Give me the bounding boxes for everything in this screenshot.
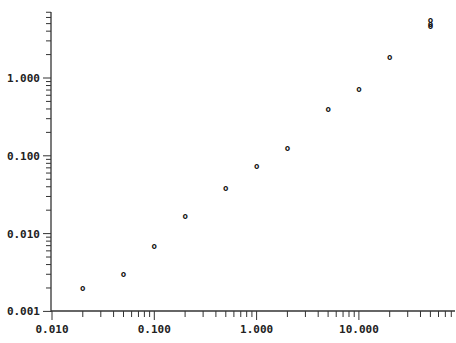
data-points: ooooooooooooo: [80, 15, 433, 293]
data-point-marker: o: [254, 161, 259, 171]
data-point-marker: o: [428, 15, 433, 25]
scatter-chart: 0.0100.1001.00010.0000.0010.0100.1001.00…: [0, 0, 456, 343]
x-tick-label: 1.000: [240, 323, 273, 336]
y-tick-label: 0.001: [7, 305, 40, 318]
y-tick-label: 1.000: [7, 72, 40, 85]
tick-labels: 0.0100.1001.00010.0000.0010.0100.1001.00…: [7, 72, 379, 336]
data-point-marker: o: [152, 241, 157, 251]
data-point-marker: o: [387, 52, 392, 62]
y-tick-label: 0.100: [7, 150, 40, 163]
data-point-marker: o: [80, 283, 85, 293]
x-tick-label: 0.010: [35, 323, 68, 336]
data-point-marker: o: [223, 183, 228, 193]
data-point-marker: o: [325, 104, 330, 114]
x-tick-label: 0.100: [138, 323, 171, 336]
x-tick-label: 10.000: [339, 323, 379, 336]
data-point-marker: o: [121, 269, 126, 279]
data-point-marker: o: [182, 211, 187, 221]
data-point-marker: o: [356, 84, 361, 94]
y-tick-label: 0.010: [7, 228, 40, 241]
data-point-marker: o: [285, 143, 290, 153]
